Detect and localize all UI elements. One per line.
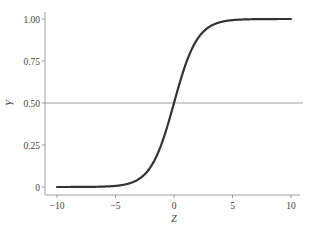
sigmoid-chart: −10−50510 00.250.500.751.00 Z Y	[0, 0, 314, 231]
y-axis-ticks: 00.250.500.751.00	[23, 15, 45, 193]
y-tick-label: 0.50	[23, 99, 40, 109]
y-tick-label: 0.75	[23, 57, 40, 67]
x-tick-label: 5	[230, 201, 235, 211]
y-tick-label: 0.25	[23, 141, 40, 151]
x-axis-ticks: −10−50510	[50, 195, 296, 211]
x-tick-label: −5	[110, 201, 120, 211]
x-tick-label: 10	[286, 201, 296, 211]
y-tick-label: 0	[35, 183, 40, 193]
x-tick-label: −10	[50, 201, 65, 211]
y-tick-label: 1.00	[23, 15, 40, 25]
y-axis-label: Y	[4, 99, 15, 106]
x-tick-label: 0	[172, 201, 177, 211]
axes	[45, 12, 300, 195]
x-axis-label: Z	[171, 213, 177, 224]
